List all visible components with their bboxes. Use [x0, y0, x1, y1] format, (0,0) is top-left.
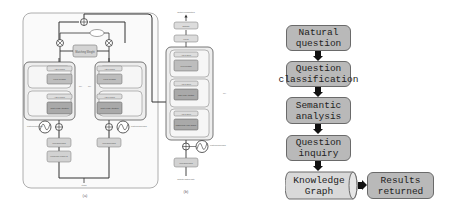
repeat-marker: N×	[88, 85, 92, 88]
flow-step-results-returned: Resultsreturned	[367, 172, 434, 199]
svg-text:Multi-Head Attention: Multi-Head Attention	[178, 94, 194, 96]
knowledge-graph-label: KnowledgeGraph	[287, 172, 351, 199]
step-label: Question	[296, 137, 342, 148]
svg-text:Positional Encoding: Positional Encoding	[210, 144, 226, 146]
step-label: question	[296, 38, 342, 49]
svg-text:Linear: Linear	[183, 38, 189, 40]
svg-text:Softmax: Softmax	[183, 25, 190, 27]
step-label: classification	[279, 74, 359, 85]
svg-text:Add & Norm: Add & Norm	[104, 68, 115, 70]
step-label: Semantic	[296, 100, 342, 111]
sigma-node	[90, 30, 104, 37]
svg-text:Input Embedding: Input Embedding	[179, 162, 193, 164]
arrow-down-icon	[313, 129, 323, 134]
svg-text:Knowledge Feature Ø: Knowledge Feature Ø	[50, 155, 68, 157]
flow-step-question-inquiry: Questioninquiry	[286, 135, 351, 161]
flow-step-semantic-analysis: Semanticanalysis	[286, 97, 351, 124]
architecture-diagrams: Matching Weight Add & Norm Feed Forward …	[0, 0, 250, 209]
svg-text:Positional Encoding: Positional Encoding	[131, 125, 147, 127]
results-label: returned	[378, 186, 424, 197]
flow-step-question-classification: Questionclassification	[286, 61, 351, 87]
outputs-shifted-label: Outputs (shifted right)	[177, 178, 195, 180]
svg-text:Add & Norm: Add & Norm	[104, 96, 115, 98]
step-label: analysis	[296, 111, 342, 122]
svg-text:Add & Norm: Add & Norm	[181, 83, 191, 85]
caption-b: (b)	[184, 189, 190, 194]
svg-text:Feed Forward: Feed Forward	[53, 78, 65, 80]
svg-text:Feed Forward: Feed Forward	[180, 65, 191, 67]
output-probabilities-label: Output Probabilities	[177, 11, 194, 13]
kg-label: Knowledge	[293, 175, 344, 186]
svg-text:Add & Norm: Add & Norm	[181, 54, 191, 56]
step-label: inquiry	[299, 148, 339, 159]
svg-text:Add & Norm: Add & Norm	[54, 96, 65, 98]
repeat-marker: N×	[79, 85, 83, 88]
svg-text:Positional Encoding: Positional Encoding	[27, 125, 43, 127]
svg-text:Multi-Head Attention: Multi-Head Attention	[100, 107, 118, 109]
svg-text:Add & Norm: Add & Norm	[181, 113, 191, 115]
flow-step-natural-question: Naturalquestion	[286, 25, 351, 51]
caption-a: (a)	[83, 193, 89, 198]
items-label: Items	[82, 184, 87, 186]
kg-label: Graph	[305, 186, 334, 197]
svg-text:Input Embedding: Input Embedding	[102, 142, 116, 144]
svg-text:Matching Weight: Matching Weight	[75, 50, 95, 54]
svg-text:Multi-Head Attention: Multi-Head Attention	[50, 107, 68, 109]
results-label: Results	[381, 175, 421, 186]
step-label: Natural	[299, 27, 339, 38]
svg-text:Masked Multi-Head Attention: Masked Multi-Head Attention	[176, 124, 196, 126]
svg-text:Feed Forward: Feed Forward	[103, 78, 115, 80]
step-label: Question	[296, 63, 342, 74]
svg-text:Add & Norm: Add & Norm	[54, 68, 65, 70]
repeat-marker: N×	[223, 92, 227, 95]
svg-text:Input Embedding: Input Embedding	[52, 142, 66, 144]
